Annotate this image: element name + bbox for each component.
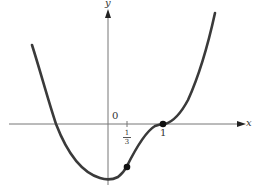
tick-label-one: 1 — [160, 127, 166, 138]
tick-label-one-third: 1 3 — [123, 129, 131, 146]
x-axis-label: x — [246, 117, 252, 128]
function-curve — [32, 13, 215, 179]
graph — [0, 0, 254, 185]
fraction-numerator: 1 — [123, 129, 131, 137]
y-axis-label: y — [105, 0, 111, 8]
y-axis-arrow-icon — [105, 9, 111, 18]
origin-label: 0 — [112, 110, 118, 121]
point-one-third — [124, 164, 131, 171]
x-axis-arrow-icon — [237, 121, 246, 127]
fraction-denominator: 3 — [123, 137, 131, 146]
